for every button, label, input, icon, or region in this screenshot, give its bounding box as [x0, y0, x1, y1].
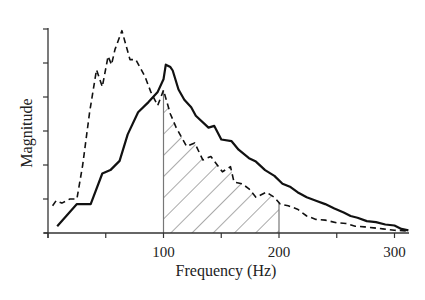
x-tick-label: 200 [268, 244, 291, 260]
y-axis [43, 28, 48, 238]
x-tick-label: 300 [383, 244, 406, 260]
x-axis-title: Frequency (Hz) [176, 262, 277, 280]
frequency-magnitude-chart: 100200300 Frequency (Hz) Magnitude [0, 0, 425, 300]
x-axis: 100200300 [44, 233, 409, 260]
hatched-region [164, 90, 280, 233]
y-axis-title: Magnitude [18, 98, 36, 167]
x-tick-label: 100 [152, 244, 175, 260]
